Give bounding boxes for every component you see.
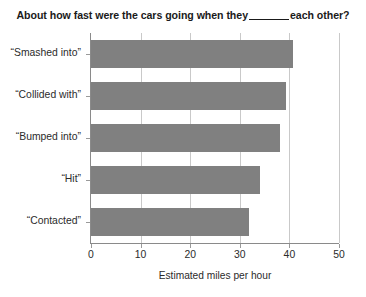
x-axis-tick-label: 0 [76, 249, 106, 260]
y-axis-category-label: “Collided with” [0, 89, 85, 100]
x-axis-tick [289, 244, 290, 248]
x-axis-tick [91, 244, 92, 248]
plot-area [91, 33, 339, 243]
bar [91, 166, 260, 194]
y-axis-category-label: “Smashed into” [0, 47, 85, 58]
y-axis-tick [86, 54, 90, 55]
bar [91, 208, 249, 236]
x-axis-tick-label: 30 [225, 249, 255, 260]
x-axis-tick [190, 244, 191, 248]
x-axis-tick-label: 40 [274, 249, 304, 260]
x-axis-tick-label: 20 [175, 249, 205, 260]
bar [91, 82, 286, 110]
y-axis-category-label: “Hit” [0, 173, 85, 184]
y-axis-tick [86, 180, 90, 181]
bar-row [91, 40, 339, 68]
bar-row [91, 166, 339, 194]
x-axis-tick [141, 244, 142, 248]
x-axis-title: Estimated miles per hour [91, 270, 339, 281]
y-axis-tick [86, 222, 90, 223]
gridline [339, 33, 340, 243]
bar-chart: “Smashed into”“Collided with”“Bumped int… [0, 0, 366, 297]
x-axis-tick-label: 50 [324, 249, 354, 260]
bar [91, 40, 293, 68]
y-axis-tick [86, 138, 90, 139]
y-axis-category-label: “Contacted” [0, 215, 85, 226]
bar [91, 124, 280, 152]
bar-row [91, 82, 339, 110]
x-axis-tick [240, 244, 241, 248]
x-axis-tick-label: 10 [126, 249, 156, 260]
bar-row [91, 124, 339, 152]
y-axis-tick [86, 96, 90, 97]
bar-row [91, 208, 339, 236]
y-axis-category-label: “Bumped into” [0, 131, 85, 142]
x-axis-line [90, 243, 339, 244]
x-axis-tick [339, 244, 340, 248]
